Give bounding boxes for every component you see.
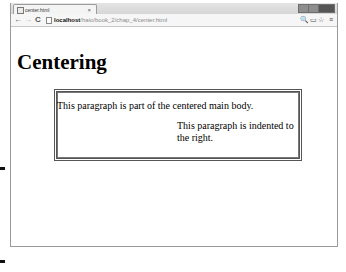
page-favicon-icon xyxy=(17,7,24,14)
page-icon xyxy=(46,17,52,24)
browser-window: center.html × ← → C localhost/haio/book_… xyxy=(10,3,338,247)
main-paragraph: This paragraph is part of the centered m… xyxy=(57,100,253,111)
forward-arrow-icon[interactable]: → xyxy=(24,15,32,25)
title-bar: center.html × xyxy=(11,3,337,14)
menu-icon[interactable]: ≡ xyxy=(329,15,333,25)
address-bar[interactable]: localhost/haio/book_2/chap_4/center.html xyxy=(46,15,296,25)
browser-toolbar: ← → C localhost/haio/book_2/chap_4/cente… xyxy=(11,14,337,27)
page-heading: Centering xyxy=(17,50,107,75)
back-arrow-icon[interactable]: ← xyxy=(14,15,22,25)
window-controls xyxy=(299,4,335,12)
page-viewport: Centering This paragraph is part of the … xyxy=(11,27,337,246)
bookmark-star-icon[interactable]: ☆ xyxy=(318,15,324,25)
page-action-icon[interactable]: ▭ xyxy=(310,15,317,25)
indented-paragraph: This paragraph is indented to the right. xyxy=(177,120,299,143)
margin-mark-top xyxy=(0,167,5,170)
zoom-icon[interactable]: 🔍 xyxy=(300,15,309,25)
centered-main-body: This paragraph is part of the centered m… xyxy=(54,89,302,161)
reload-icon[interactable]: C xyxy=(35,15,41,25)
url-path: /haio/book_2/chap_4/center.html xyxy=(80,17,167,23)
margin-mark-bottom xyxy=(0,260,5,263)
toolbar-icons: 🔍 ▭ ☆ ≡ xyxy=(300,15,333,25)
close-window-button[interactable] xyxy=(318,4,335,13)
url-host: localhost xyxy=(54,17,80,23)
